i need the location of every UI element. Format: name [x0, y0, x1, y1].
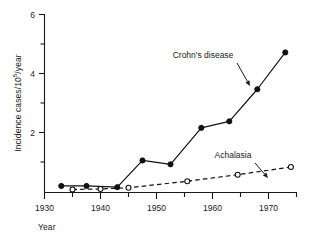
data-point — [70, 187, 75, 192]
annotation-label: Achalasia — [215, 150, 252, 160]
data-point — [255, 87, 260, 92]
x-axis-tick-labels: 1930 1940 1950 1960 1970 — [35, 203, 278, 213]
annotation-crohn-s-disease: Crohn's disease — [173, 50, 250, 86]
data-point — [235, 172, 240, 177]
data-point — [140, 158, 145, 163]
data-series-layer — [59, 50, 294, 192]
data-point — [185, 179, 190, 184]
data-point — [199, 125, 204, 130]
data-point — [84, 183, 89, 188]
data-point — [126, 185, 131, 190]
chart-figure: 6 4 2 1930 1940 1950 1960 1970 — [0, 0, 318, 243]
x-tick-label-1950: 1950 — [147, 203, 166, 213]
x-tick-label-1940: 1940 — [91, 203, 110, 213]
x-axis-ticks — [45, 193, 297, 200]
x-tick-label-1970: 1970 — [259, 203, 278, 213]
y-axis-tick-labels: 6 4 2 — [30, 10, 35, 138]
y-axis-ticks — [39, 15, 45, 163]
y-tick-label-4: 4 — [30, 69, 35, 79]
series-line — [61, 52, 285, 187]
data-point — [288, 164, 293, 169]
incidence-line-chart: 6 4 2 1930 1940 1950 1960 1970 — [0, 0, 318, 243]
data-point — [115, 185, 120, 190]
y-axis-title-prefix: Incidence cases/10 — [13, 77, 23, 152]
x-axis-title: Year — [38, 222, 56, 232]
data-point — [168, 162, 173, 167]
data-point — [98, 186, 103, 191]
y-axis-title-exponent: 5 — [11, 74, 18, 78]
data-point — [227, 119, 232, 124]
data-point — [283, 50, 288, 55]
annotation-arrow-shaft — [237, 63, 247, 81]
data-point — [59, 183, 64, 188]
series-crohn-s-disease — [59, 50, 288, 190]
x-tick-label-1960: 1960 — [203, 203, 222, 213]
annotation-label: Crohn's disease — [173, 50, 234, 60]
annotation-layer: Crohn's diseaseAchalasia — [173, 50, 268, 178]
y-tick-label-2: 2 — [30, 128, 35, 138]
y-axis-title: Incidence cases/105/year — [13, 37, 23, 169]
y-tick-label-6: 6 — [30, 10, 35, 20]
y-axis-title-suffix: /year — [13, 54, 23, 73]
x-tick-label-1930: 1930 — [35, 203, 54, 213]
